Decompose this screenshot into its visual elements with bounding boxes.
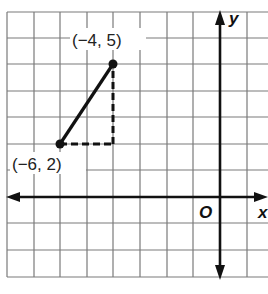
x-axis [6,192,268,202]
x-axis-right-arrow-icon [254,192,268,202]
x-axis-left-arrow-icon [6,192,20,202]
origin-label: O [199,203,212,222]
point-a [109,60,118,69]
point-a-label: (−4, 5) [72,31,122,50]
coordinate-plane: y x O (−4, 5) (−6, 2) [0,0,268,294]
point-b [56,140,65,149]
y-axis-label: y [228,9,240,28]
point-b-label: (−6, 2) [12,155,62,174]
grid-lines [7,12,268,277]
y-axis [215,10,225,280]
y-axis-down-arrow-icon [215,265,225,280]
x-axis-label: x [257,203,268,222]
